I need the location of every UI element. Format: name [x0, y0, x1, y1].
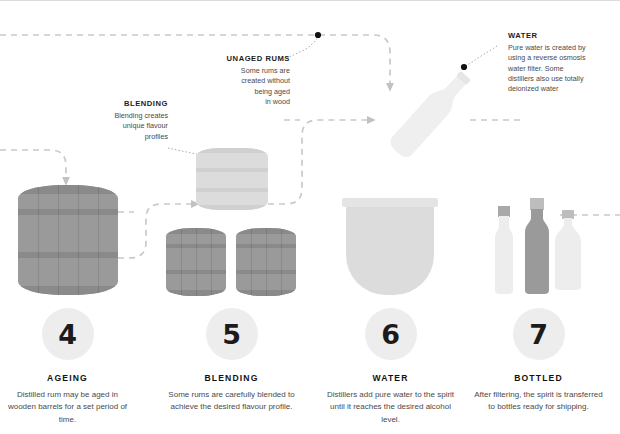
blending-barrel-left [166, 228, 226, 296]
step-water-name: WATER [313, 373, 468, 383]
step-bottled-number: 7 [529, 321, 547, 348]
step-water-number: 6 [381, 321, 399, 348]
callout-unaged-rums-line-2: created without [185, 76, 290, 86]
step-water-description: Distillers add pure water to the spirit … [313, 389, 468, 426]
callout-water: WATER Pure water is created by using a r… [508, 31, 613, 94]
bottle-right [555, 210, 581, 290]
callout-unaged-rums: UNAGED RUMS Some rums are created withou… [185, 54, 290, 107]
step-bottled-name: BOTTLED [461, 373, 616, 383]
bottle-left [495, 206, 513, 294]
step-blending-description: Some rums are carefully blended to achie… [154, 389, 309, 414]
callout-blending-title: BLENDING [70, 99, 168, 109]
step-ageing-description: Distilled rum may be aged in wooden barr… [0, 389, 145, 426]
callout-blending-line-1: Blending creates [70, 111, 168, 121]
step-ageing-name: AGEING [0, 373, 145, 383]
callout-blending-line-3: profiles [70, 132, 168, 142]
ageing-barrel-illustration [18, 185, 118, 295]
callout-blending: BLENDING Blending creates unique flavour… [70, 99, 168, 142]
callout-blending-line-2: unique flavour [70, 121, 168, 131]
step-ageing-badge: 4 [42, 308, 94, 360]
water-vat-illustration [346, 203, 434, 295]
step-ageing[interactable]: 4 AGEING Distilled rum may be aged in wo… [0, 308, 145, 426]
step-bottled-description: After filtering, the spirit is transferr… [461, 389, 616, 414]
callout-water-line-2: using a reverse osmosis [508, 53, 613, 63]
blending-vat-illustration [196, 148, 268, 210]
infographic-canvas: UNAGED RUMS Some rums are created withou… [0, 0, 620, 434]
step-water[interactable]: 6 WATER Distillers add pure water to the… [313, 308, 468, 426]
callout-unaged-rums-line-3: being aged [185, 87, 290, 97]
step-ageing-number: 4 [58, 321, 76, 348]
step-water-badge: 6 [365, 308, 417, 360]
node-dot-unaged [315, 32, 321, 38]
blending-barrel-right [236, 228, 296, 296]
step-blending-number: 5 [222, 321, 240, 348]
callout-water-title: WATER [508, 31, 613, 41]
callout-water-line-1: Pure water is created by [508, 43, 613, 53]
connector-into-ageing [0, 150, 66, 182]
callout-water-line-5: deionized water [508, 84, 613, 94]
step-blending-badge: 5 [206, 308, 258, 360]
bottles-illustration [486, 196, 590, 296]
pouring-bottle-illustration [378, 58, 484, 170]
callout-unaged-rums-title: UNAGED RUMS [185, 54, 290, 64]
callout-unaged-rums-line-4: in wood [185, 97, 290, 107]
water-vat-rim [342, 198, 438, 207]
step-blending[interactable]: 5 BLENDING Some rums are carefully blend… [154, 308, 309, 414]
connector-blending-to-water [268, 120, 372, 204]
step-bottled-badge: 7 [513, 308, 565, 360]
step-bottled[interactable]: 7 BOTTLED After filtering, the spirit is… [461, 308, 616, 414]
step-blending-name: BLENDING [154, 373, 309, 383]
bottle-center [525, 198, 549, 294]
callout-water-line-4: distillers also use totally [508, 74, 613, 84]
callout-unaged-rums-line-1: Some rums are [185, 66, 290, 76]
callout-water-line-3: water filter. Some [508, 64, 613, 74]
